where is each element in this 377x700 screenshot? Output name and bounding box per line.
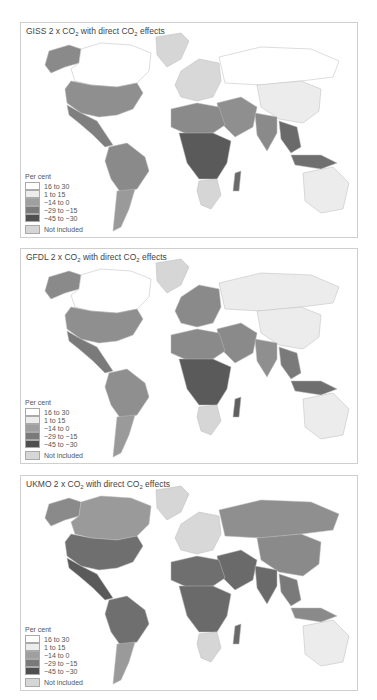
legend-swatch	[25, 451, 40, 460]
region-central-africa	[179, 133, 231, 179]
region-south-america-north	[105, 596, 149, 646]
legend-label: −14 to 0	[44, 199, 70, 206]
region-south-america-south	[113, 415, 135, 457]
region-greenland	[156, 33, 189, 67]
legend-label: Not included	[44, 679, 83, 686]
region-europe	[175, 59, 221, 101]
legend-swatch	[25, 225, 40, 234]
region-central-africa	[179, 586, 231, 632]
region-south-america-north	[105, 369, 149, 419]
region-southern-africa	[197, 179, 221, 209]
legend-label: −14 to 0	[44, 425, 70, 432]
legend-swatch	[25, 635, 40, 643]
legend: Per cent 16 to 301 to 15−14 to 0−29 to −…	[25, 626, 83, 687]
legend-swatch	[25, 432, 40, 440]
legend-title: Per cent	[25, 626, 83, 633]
legend-label: −45 to −30	[44, 441, 77, 448]
legend-label: −45 to −30	[44, 668, 77, 675]
region-southern-africa	[197, 632, 221, 662]
legend: Per cent 16 to 301 to 15−14 to 0−29 to −…	[25, 173, 83, 234]
legend-item: −29 to −15	[25, 432, 83, 440]
legend-title: Per cent	[25, 399, 83, 406]
legend-label: −29 to −15	[44, 207, 77, 214]
legend-swatch	[25, 182, 40, 190]
legend-swatch	[25, 440, 40, 448]
legend: Per cent 16 to 301 to 15−14 to 0−29 to −…	[25, 399, 83, 460]
region-europe	[175, 512, 221, 554]
region-middle-east	[217, 97, 257, 137]
legend-swatch	[25, 190, 40, 198]
legend-label: 16 to 30	[44, 636, 69, 643]
legend-item: 16 to 30	[25, 408, 83, 416]
region-europe	[175, 285, 221, 327]
legend-item: 1 to 15	[25, 416, 83, 424]
legend-label: Not included	[44, 226, 83, 233]
region-greenland	[156, 486, 189, 520]
legend-swatch	[25, 678, 40, 687]
legend-swatch	[25, 659, 40, 667]
legend-item-not-included: Not included	[25, 225, 83, 234]
region-greenland	[156, 259, 189, 293]
region-russia	[219, 500, 339, 538]
legend-item-not-included: Not included	[25, 678, 83, 687]
region-india	[255, 566, 277, 604]
region-madagascar	[233, 171, 241, 191]
legend-label: −45 to −30	[44, 215, 77, 222]
legend-item: −14 to 0	[25, 651, 83, 659]
legend-label: 1 to 15	[44, 644, 65, 651]
legend-swatch	[25, 651, 40, 659]
legend-label: −14 to 0	[44, 652, 70, 659]
map-panel-gfdl: GFDL 2 x CO2 with direct CO2 effects	[20, 248, 358, 464]
map-panel-ukmo: UKMO 2 x CO2 with direct CO2 effects	[20, 475, 358, 691]
legend-swatch	[25, 408, 40, 416]
legend-item: −45 to −30	[25, 667, 83, 675]
region-madagascar	[233, 397, 241, 417]
legend-swatch	[25, 667, 40, 675]
region-canada	[71, 43, 151, 87]
region-russia	[219, 273, 339, 311]
region-north-africa	[171, 103, 225, 135]
region-canada	[71, 496, 151, 540]
legend-label: 1 to 15	[44, 191, 65, 198]
legend-item: 16 to 30	[25, 182, 83, 190]
region-southeast-asia	[279, 347, 301, 379]
region-middle-east	[217, 550, 257, 590]
legend-item: 1 to 15	[25, 190, 83, 198]
region-south-america-north	[105, 143, 149, 193]
region-southeast-asia	[279, 574, 301, 606]
legend-swatch	[25, 416, 40, 424]
region-australia	[303, 620, 349, 666]
legend-title: Per cent	[25, 173, 83, 180]
region-north-africa	[171, 556, 225, 588]
region-north-africa	[171, 329, 225, 361]
legend-swatch	[25, 424, 40, 432]
legend-label: 16 to 30	[44, 183, 69, 190]
legend-item: −45 to −30	[25, 440, 83, 448]
legend-swatch	[25, 643, 40, 651]
legend-item: −29 to −15	[25, 206, 83, 214]
region-southern-africa	[197, 405, 221, 435]
region-madagascar	[233, 624, 241, 644]
legend-label: Not included	[44, 452, 83, 459]
legend-item: 16 to 30	[25, 635, 83, 643]
legend-swatch	[25, 198, 40, 206]
region-south-america-south	[113, 642, 135, 684]
legend-item: −14 to 0	[25, 424, 83, 432]
legend-item: 1 to 15	[25, 643, 83, 651]
legend-label: −29 to −15	[44, 660, 77, 667]
region-canada	[71, 269, 151, 313]
region-south-america-south	[113, 189, 135, 231]
region-australia	[303, 393, 349, 439]
legend-label: 16 to 30	[44, 409, 69, 416]
legend-item-not-included: Not included	[25, 451, 83, 460]
legend-item: −29 to −15	[25, 659, 83, 667]
region-india	[255, 113, 277, 151]
region-central-africa	[179, 359, 231, 405]
region-russia	[219, 47, 339, 85]
legend-label: 1 to 15	[44, 417, 65, 424]
region-indonesia	[291, 608, 337, 622]
legend-swatch	[25, 214, 40, 222]
map-panel-giss: GISS 2 x CO2 with direct CO2 effects	[20, 22, 358, 238]
legend-swatch	[25, 206, 40, 214]
region-indonesia	[291, 381, 337, 395]
